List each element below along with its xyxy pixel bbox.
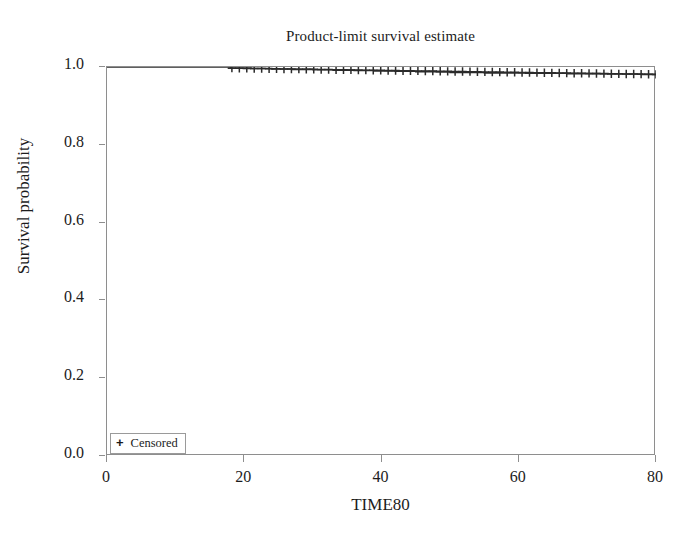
y-tick-mark bbox=[99, 222, 105, 223]
x-tick-label: 80 bbox=[625, 468, 685, 486]
censored-marker bbox=[339, 67, 347, 74]
x-tick-label: 0 bbox=[76, 468, 136, 486]
censored-marker bbox=[607, 70, 615, 78]
plus-marker-icon: + bbox=[116, 436, 124, 449]
x-tick-label: 40 bbox=[351, 468, 411, 486]
censored-marker bbox=[443, 67, 451, 75]
censored-marker bbox=[257, 67, 265, 73]
censored-marker bbox=[577, 69, 585, 77]
x-tick-mark bbox=[243, 455, 244, 462]
censored-marker bbox=[421, 67, 429, 75]
censored-marker bbox=[525, 68, 533, 76]
censored-marker bbox=[369, 67, 377, 74]
censored-marker bbox=[615, 70, 623, 78]
y-tick-label: 0.4 bbox=[40, 288, 84, 306]
y-tick-mark bbox=[99, 299, 105, 300]
censored-marker bbox=[384, 67, 392, 75]
censored-marker bbox=[570, 69, 578, 77]
censored-marker bbox=[391, 67, 399, 75]
censored-marker bbox=[235, 67, 243, 72]
x-tick-mark bbox=[106, 455, 107, 462]
censored-marker bbox=[436, 67, 444, 75]
censored-marker bbox=[280, 67, 288, 73]
censored-marker bbox=[228, 67, 236, 72]
censored-marker bbox=[652, 70, 656, 78]
censored-marker bbox=[473, 68, 481, 76]
censored-marker bbox=[302, 67, 310, 73]
censored-marker bbox=[637, 70, 645, 78]
x-tick-label: 20 bbox=[213, 468, 273, 486]
y-tick-mark bbox=[99, 66, 105, 67]
censored-marker bbox=[332, 67, 340, 74]
legend-item-censored-label: Censored bbox=[131, 436, 178, 451]
censored-marker bbox=[510, 68, 518, 76]
censored-marker bbox=[481, 68, 489, 76]
y-tick-mark bbox=[99, 377, 105, 378]
censored-marker bbox=[548, 69, 556, 77]
censored-marker bbox=[295, 67, 303, 73]
censored-marker bbox=[600, 69, 608, 77]
censored-marker bbox=[458, 67, 466, 75]
censored-marker bbox=[250, 67, 258, 73]
censored-marker bbox=[503, 68, 511, 76]
x-axis-label: TIME80 bbox=[106, 495, 655, 515]
censored-marker bbox=[563, 69, 571, 77]
censored-marker bbox=[272, 67, 280, 73]
x-tick-mark bbox=[518, 455, 519, 462]
censored-marker bbox=[414, 67, 422, 75]
censored-marker bbox=[362, 67, 370, 74]
survival-curve-svg bbox=[107, 67, 656, 456]
y-axis-label: Survival probability bbox=[14, 56, 34, 356]
censored-marker bbox=[496, 68, 504, 76]
censored-marker bbox=[488, 68, 496, 76]
censored-marker bbox=[377, 67, 385, 75]
censored-marker bbox=[585, 69, 593, 77]
y-tick-label: 1.0 bbox=[40, 55, 84, 73]
censored-marker bbox=[451, 67, 459, 75]
censored-marker bbox=[406, 67, 414, 75]
y-tick-label: 0.6 bbox=[40, 211, 84, 229]
censored-marker bbox=[540, 69, 548, 77]
censored-marker bbox=[622, 70, 630, 78]
censored-marker bbox=[555, 69, 563, 77]
x-tick-mark bbox=[381, 455, 382, 462]
y-tick-label: 0.8 bbox=[40, 133, 84, 151]
censored-marker bbox=[629, 70, 637, 78]
plot-area bbox=[106, 66, 655, 455]
chart-title: Product-limit survival estimate bbox=[106, 28, 655, 45]
legend-box: + Censored bbox=[110, 433, 186, 454]
x-tick-label: 60 bbox=[488, 468, 548, 486]
y-tick-mark bbox=[99, 455, 105, 456]
censored-marker bbox=[592, 69, 600, 77]
censored-marker bbox=[243, 67, 251, 73]
censored-marker bbox=[518, 68, 526, 76]
survival-plot-figure: Product-limit survival estimate Survival… bbox=[0, 0, 692, 543]
censored-marker bbox=[399, 67, 407, 75]
censored-marker bbox=[533, 68, 541, 76]
y-tick-label: 0.2 bbox=[40, 366, 84, 384]
y-tick-label: 0.0 bbox=[40, 444, 84, 462]
censored-marker bbox=[354, 67, 362, 74]
censored-marker bbox=[347, 67, 355, 74]
censored-marker bbox=[429, 67, 437, 75]
x-tick-mark bbox=[655, 455, 656, 462]
censored-marker bbox=[644, 70, 652, 78]
y-tick-mark bbox=[99, 144, 105, 145]
censored-marker bbox=[466, 67, 474, 75]
